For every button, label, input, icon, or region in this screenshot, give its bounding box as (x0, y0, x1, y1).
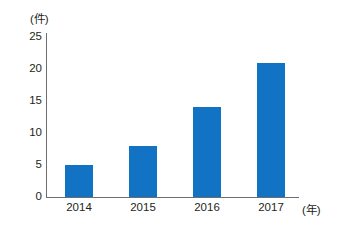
bars-layer (47, 37, 303, 197)
bar (129, 146, 157, 197)
x-axis-unit-label: (年) (302, 204, 321, 217)
y-axis-tick-label: 0 (2, 191, 42, 203)
y-axis-tick-label: 15 (2, 95, 42, 107)
bar (193, 107, 221, 197)
x-axis-tick-label: 2016 (177, 201, 237, 214)
x-axis-tick-labels: 2014201520162017 (47, 201, 303, 221)
bar-chart: (件) 0510152025 2014201520162017 (年) (0, 0, 343, 230)
x-axis-tick-label: 2014 (49, 201, 109, 214)
bar (65, 165, 93, 197)
bar (257, 63, 285, 197)
y-axis-tick-labels: 0510152025 (0, 0, 42, 230)
y-axis-tick-label: 25 (2, 31, 42, 43)
x-axis-tick-label: 2017 (241, 201, 301, 214)
y-axis-tick-label: 5 (2, 159, 42, 171)
x-axis-tick-label: 2015 (113, 201, 173, 214)
y-axis-tick-label: 10 (2, 127, 42, 139)
x-axis-line (46, 197, 299, 198)
y-axis-tick-label: 20 (2, 63, 42, 75)
